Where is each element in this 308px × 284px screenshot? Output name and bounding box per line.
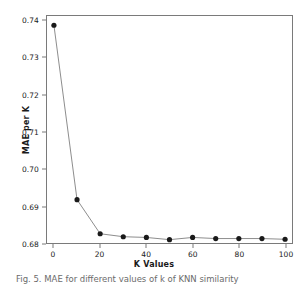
- data-point-marker: 0, 0.7388: [51, 23, 56, 28]
- x-tick-mark: [192, 244, 193, 248]
- data-point-marker: 10, 0.6917: [74, 197, 79, 202]
- x-tick-label: 40: [141, 250, 151, 259]
- data-point-marker: 80, 0.6812: [236, 236, 241, 241]
- plot-area: 0, 0.738810, 0.691720, 0.682530, 0.68174…: [46, 15, 293, 244]
- data-line: [54, 25, 285, 239]
- data-point-marker: 40, 0.6815: [144, 235, 149, 240]
- line-series-svg: 0, 0.738810, 0.691720, 0.682530, 0.68174…: [47, 16, 292, 243]
- figure-caption: Fig. 5. MAE for different values of k of…: [16, 274, 292, 284]
- x-tick-mark: [146, 244, 147, 248]
- data-point-marker: 50, 0.6809: [167, 237, 172, 242]
- x-tick-label: 80: [235, 250, 245, 259]
- y-tick-label: 0.72: [22, 90, 39, 99]
- x-tick-label: 20: [95, 250, 105, 259]
- x-tick-label: 60: [188, 250, 198, 259]
- y-tick-label: 0.69: [22, 202, 39, 211]
- x-tick-mark: [239, 244, 240, 248]
- x-tick-mark: [52, 244, 53, 248]
- x-tick-mark: [286, 244, 287, 248]
- y-tick-label: 0.73: [22, 53, 39, 62]
- x-axis-title: K Values: [0, 260, 308, 269]
- data-point-marker: 70, 0.6812: [213, 236, 218, 241]
- data-point-marker: 30, 0.6817: [121, 234, 126, 239]
- x-tick-label: 0: [51, 250, 56, 259]
- data-point-marker: 100, 0.681: [282, 237, 287, 242]
- data-point-marker: 20, 0.6825: [98, 231, 103, 236]
- data-point-marker: 60, 0.6815: [190, 235, 195, 240]
- y-axis-title: MAE per K: [22, 106, 31, 154]
- x-tick-mark: [99, 244, 100, 248]
- y-tick-label: 0.70: [22, 165, 39, 174]
- y-tick-label: 0.74: [22, 15, 39, 24]
- data-point-marker: 90, 0.6812: [259, 236, 264, 241]
- x-tick-label: 100: [279, 250, 294, 259]
